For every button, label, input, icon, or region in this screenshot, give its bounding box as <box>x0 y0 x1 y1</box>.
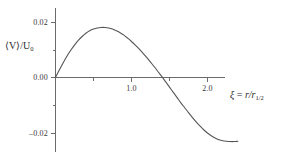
y-tick-label-0.00: 0.00 <box>14 73 48 82</box>
y-axis-title: ⟨V⟩/U0 <box>5 40 33 52</box>
x-tick-label-2.0: 2.0 <box>193 84 222 93</box>
figure-container: 0.02 0.00 –0.02 1.0 2.0 ⟨V⟩/U0 ξ = r/r1/… <box>0 0 283 161</box>
x-axis-title-ratio: r/r <box>245 89 256 100</box>
x-axis-title: ξ = r/r1/2 <box>230 89 264 101</box>
y-axis-title-subscript: 0 <box>30 45 33 52</box>
y-axis-title-text: ⟨V⟩/U <box>5 40 30 51</box>
x-axis-title-equals: = <box>234 89 245 100</box>
x-axis-title-subscript: 1/2 <box>256 94 264 101</box>
x-tick-label-1.0: 1.0 <box>117 84 146 93</box>
y-tick-label-0.02: 0.02 <box>14 18 48 27</box>
y-tick-label-neg0.02: –0.02 <box>10 129 48 138</box>
